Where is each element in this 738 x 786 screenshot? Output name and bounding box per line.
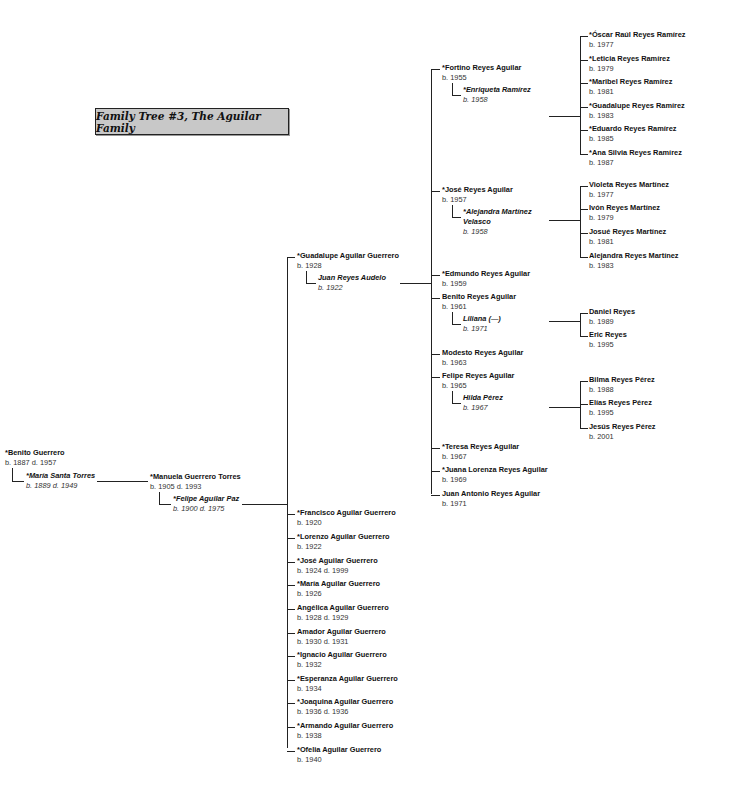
connector-line	[287, 727, 295, 728]
person-dates: b. 1981	[589, 87, 672, 97]
connector-line	[431, 275, 440, 276]
gen4-person: *Teresa Reyes Aguilarb. 1967	[442, 442, 519, 462]
gen4-person: *Fortino Reyes Aguilarb. 1955	[442, 63, 521, 83]
connector-line	[580, 257, 588, 258]
person-dates: b. 1932	[297, 660, 387, 670]
diagram-title: Family Tree #3, The Aguilar Family	[96, 110, 288, 134]
person-dates: b. 1940	[297, 755, 381, 765]
spouse-dates: b. 1967	[463, 403, 503, 413]
person-dates: b. 1963	[442, 358, 523, 368]
spouse-dates: b. 1971	[463, 324, 501, 334]
connector-line	[580, 233, 588, 234]
gen5-person: Bilma Reyes Pérezb. 1988	[589, 375, 655, 395]
person-dates: b. 1995	[589, 408, 652, 418]
person-dates: b. 1924 d. 1999	[297, 566, 378, 576]
spouse-dates: b. 1958	[463, 227, 543, 237]
sibling-person: *Lorenzo Aguilar Guerrerob. 1922	[297, 532, 390, 552]
spouse-name: *Felipe Aguilar Paz	[173, 494, 239, 504]
person-dates: b. 1905 d. 1993	[150, 482, 241, 492]
person-dates: b. 1979	[589, 213, 660, 223]
person-name: *Armando Aguilar Guerrero	[297, 721, 393, 731]
gen5-person: Eric Reyesb. 1995	[589, 330, 627, 350]
connector-line	[580, 381, 581, 429]
person-name: *Eduardo Reyes Ramírez	[589, 124, 677, 134]
sibling-person: Amador Aguilar Guerrerob. 1930 d. 1931	[297, 627, 386, 647]
sibling-person: *Esperanza Aguilar Guerrerob. 1934	[297, 674, 398, 694]
gen4-person: *Edmundo Reyes Aguilarb. 1959	[442, 269, 530, 289]
spouse-name: *Alejandra Martínez Velasco	[463, 207, 543, 227]
connector-line	[580, 313, 588, 314]
person-dates: b. 1928	[297, 261, 399, 271]
connector-line	[580, 36, 588, 37]
spouse-felipe-aguilar-paz: *Felipe Aguilar Paz b. 1900 d. 1975	[173, 494, 239, 514]
sibling-person: *José Aguilar Guerrerob. 1924 d. 1999	[297, 556, 378, 576]
person-dates: b. 1959	[442, 279, 530, 289]
gen5-person: *Eduardo Reyes Ramírezb. 1985	[589, 124, 677, 144]
sibling-person: Angélica Aguilar Guerrerob. 1928 d. 1929	[297, 603, 389, 623]
person-benito-guerrero: *Benito Guerrero b. 1887 d. 1957	[5, 448, 65, 468]
spouse-connector	[159, 504, 171, 505]
gen5-person: Elías Reyes Pérezb. 1995	[589, 398, 652, 418]
person-name: *Ofelia Aguilar Guerrero	[297, 745, 381, 755]
spouse-connector	[12, 481, 24, 482]
gen4-person: Juan Antonio Reyes Aguilarb. 1971	[442, 489, 540, 509]
person-name: *María Aguilar Guerrero	[297, 579, 380, 589]
person-dates: b. 1926	[297, 589, 380, 599]
person-name: Bilma Reyes Pérez	[589, 375, 655, 385]
sibling-person: *María Aguilar Guerrerob. 1926	[297, 579, 380, 599]
person-dates: b. 1936 d. 1936	[297, 707, 393, 717]
person-name: Jesús Reyes Pérez	[589, 422, 656, 432]
person-dates: b. 1988	[589, 385, 655, 395]
person-name: *Ana Silvia Reyes Ramírez	[589, 148, 682, 158]
connector-line	[580, 186, 581, 258]
person-dates: b. 1967	[442, 452, 519, 462]
spouse-connector	[159, 492, 160, 504]
spouse-name: *Enriqueta Ramírez	[463, 85, 531, 95]
person-dates: b. 1961	[442, 302, 516, 312]
person-dates: b. 1965	[442, 381, 514, 391]
connector-line	[452, 95, 461, 96]
connector-line	[287, 562, 295, 563]
person-name: *Ignacio Aguilar Guerrero	[297, 650, 387, 660]
connector-line	[431, 448, 440, 449]
spouse-name: Hilda Pérez	[463, 393, 503, 403]
gen5-person: *Maribel Reyes Ramírezb. 1981	[589, 77, 672, 97]
connector-line	[287, 680, 295, 681]
connector-line	[431, 191, 440, 192]
connector-line	[431, 298, 440, 299]
person-name: Alejandra Reyes Martínez	[589, 251, 679, 261]
person-dates: b. 1955	[442, 73, 521, 83]
gen4-person: *Juana Lorenza Reyes Aguilarb. 1969	[442, 465, 548, 485]
person-dates: b. 1930 d. 1931	[297, 637, 386, 647]
person-dates: b. 1981	[589, 237, 666, 247]
generation3-bracket	[287, 257, 288, 748]
person-name: *Fortino Reyes Aguilar	[442, 63, 521, 73]
person-dates: b. 1934	[297, 684, 398, 694]
person-name: Eric Reyes	[589, 330, 627, 340]
title-box: Family Tree #3, The Aguilar Family	[95, 108, 289, 135]
family-tree-diagram: Family Tree #3, The Aguilar Family *Beni…	[0, 0, 738, 786]
person-dates: b. 1928 d. 1929	[297, 613, 389, 623]
connector-line	[287, 538, 295, 539]
connector-line	[452, 324, 461, 325]
gen4-person: Benito Reyes Aguilarb. 1961	[442, 292, 516, 312]
person-name: Juan Antonio Reyes Aguilar	[442, 489, 540, 499]
person-name: Modesto Reyes Aguilar	[442, 348, 523, 358]
person-guadalupe-aguilar-guerrero: *Guadalupe Aguilar Guerrero b. 1928	[297, 251, 399, 271]
gen5-person: Josué Reyes Martínezb. 1981	[589, 227, 666, 247]
gen4-spouse: Hilda Pérezb. 1967	[463, 393, 503, 413]
sibling-person: *Joaquina Aguilar Guerrerob. 1936 d. 193…	[297, 697, 393, 717]
gen4-person: *José Reyes Aguilarb. 1957	[442, 185, 513, 205]
connector-line	[287, 633, 295, 634]
person-name: Ivón Reyes Martínez	[589, 203, 660, 213]
person-dates: b. 1938	[297, 731, 393, 741]
connector-line	[549, 220, 580, 221]
gen4-spouse: *Enriqueta Ramírezb. 1958	[463, 85, 531, 105]
gen5-person: Daniel Reyesb. 1989	[589, 307, 635, 327]
spouse-maria-santa-torres: *María Santa Torres b. 1889 d. 1949	[26, 471, 95, 491]
person-manuela-guerrero-torres: *Manuela Guerrero Torres b. 1905 d. 1993	[150, 472, 241, 492]
person-dates: b. 1979	[589, 64, 670, 74]
person-name: Felipe Reyes Aguilar	[442, 371, 514, 381]
generation4-bracket	[431, 69, 432, 494]
gen5-person: *Leticia Reyes Ramírezb. 1979	[589, 54, 670, 74]
